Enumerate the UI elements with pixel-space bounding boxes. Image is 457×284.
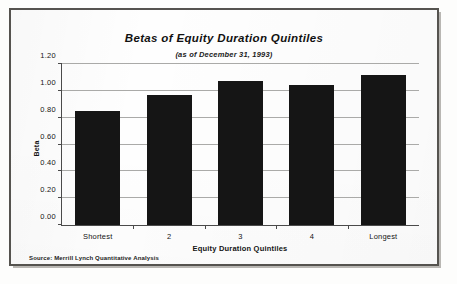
x-tick-label: Shortest xyxy=(83,232,113,241)
y-tick-label: 1.00 xyxy=(40,77,56,86)
y-axis-label: Beta xyxy=(33,141,40,157)
x-tick-label: 3 xyxy=(238,232,242,241)
source-note: Source: Merrill Lynch Quantitative Analy… xyxy=(29,255,159,261)
bar xyxy=(218,81,263,225)
y-tick-label: 0.20 xyxy=(40,185,56,194)
scanned-page: Betas of Equity Duration Quintiles (as o… xyxy=(0,0,457,284)
bar-slot: Shortest xyxy=(62,64,133,225)
plot-area: 0.000.200.400.600.801.001.20 Shortest234… xyxy=(61,64,419,226)
y-tick-label: 0.40 xyxy=(40,158,56,167)
x-tick-mark xyxy=(276,225,277,229)
x-tick-mark xyxy=(133,225,134,229)
y-tick-label: 0.80 xyxy=(40,104,56,113)
x-tick-mark xyxy=(205,225,206,229)
x-tick-label: 2 xyxy=(167,232,171,241)
bar xyxy=(75,111,120,225)
x-axis-label: Equity Duration Quintiles xyxy=(61,244,419,253)
bar-slot: 4 xyxy=(276,64,347,225)
x-tick-label: Longest xyxy=(369,232,397,241)
bar xyxy=(147,95,192,225)
plot-area-wrapper: 0.000.200.400.600.801.001.20 Shortest234… xyxy=(61,64,419,226)
y-tick-label: 0.00 xyxy=(40,212,56,221)
bar xyxy=(289,85,334,225)
bar xyxy=(361,75,406,225)
bar-slot: 2 xyxy=(133,64,204,225)
bar-slot: 3 xyxy=(205,64,276,225)
x-tick-label: 4 xyxy=(310,232,314,241)
bar-slot: Longest xyxy=(348,64,419,225)
chart-frame: Betas of Equity Duration Quintiles (as o… xyxy=(9,8,439,266)
y-tick-label: 0.60 xyxy=(40,131,56,140)
chart-subtitle: (as of December 31, 1993) xyxy=(11,50,437,59)
y-tick-label: 1.20 xyxy=(40,51,56,60)
chart-title: Betas of Equity Duration Quintiles xyxy=(11,32,437,44)
x-tick-mark xyxy=(348,225,349,229)
bar-series: Shortest234Longest xyxy=(62,64,419,225)
